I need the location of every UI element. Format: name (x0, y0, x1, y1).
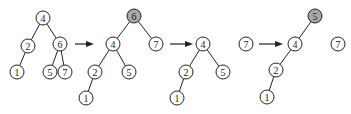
node-label: 7 (244, 39, 249, 50)
node-label: 7 (63, 67, 68, 78)
node-label: 1 (15, 67, 20, 78)
node-label: 5 (313, 11, 318, 22)
tree-panel-1: 426157 (10, 11, 72, 79)
tree-edge (20, 52, 26, 65)
tree-panel-2: 647251 (79, 9, 163, 105)
diagram-svg: 4261576472514251754721 (0, 0, 351, 114)
tree-node-5: 5 (122, 65, 136, 79)
node-label: 5 (48, 67, 53, 78)
tree-node-2: 2 (21, 39, 35, 53)
tree-node-5: 5 (216, 65, 230, 79)
tree-edge (47, 24, 56, 38)
tree-edge (99, 50, 109, 66)
tree-panel-4: 754721 (239, 9, 345, 104)
node-label: 6 (58, 39, 63, 50)
node-label: 4 (111, 39, 116, 50)
node-label: 2 (93, 67, 98, 78)
tree-panel-3: 4251 (170, 37, 230, 105)
tree-rotation-diagram: 4261576472514251754721 (0, 0, 351, 114)
node-label: 7 (336, 39, 341, 50)
tree-edge (31, 24, 39, 40)
tree-edge (88, 79, 92, 92)
node-label: 4 (293, 39, 298, 50)
tree-node-2: 2 (179, 65, 193, 79)
node-label: 1 (265, 92, 270, 103)
tree-node-7: 7 (149, 37, 163, 51)
node-label: 4 (201, 39, 206, 50)
tree-node-1: 1 (170, 91, 184, 105)
node-label: 6 (132, 11, 137, 22)
tree-node-5-highlighted: 5 (308, 9, 322, 23)
tree-node-1: 1 (10, 65, 24, 79)
tree-node-2: 2 (269, 63, 283, 77)
node-label: 5 (221, 67, 226, 78)
tree-node-4: 4 (36, 11, 50, 25)
tree-edge (190, 50, 200, 66)
tree-node-4: 4 (106, 37, 120, 51)
tree-edge (269, 77, 274, 91)
tree-node-2: 2 (88, 65, 102, 79)
tree-node-7: 7 (58, 65, 72, 79)
tree-node-1: 1 (260, 90, 274, 104)
tree-edge (116, 50, 125, 66)
right-arrow-icon (259, 41, 283, 47)
node-label: 7 (154, 39, 159, 50)
right-arrow-icon (75, 41, 94, 47)
node-label: 2 (274, 65, 279, 76)
tree-edge (138, 22, 151, 39)
tree-node-4: 4 (288, 37, 302, 51)
node-label: 1 (175, 93, 180, 104)
node-label: 4 (41, 13, 46, 24)
tree-node-6-highlighted: 6 (127, 9, 141, 23)
node-label: 1 (84, 93, 89, 104)
tree-node-6: 6 (53, 37, 67, 51)
tree-edge (280, 50, 291, 65)
tree-edge (117, 22, 130, 39)
tree-edge (52, 51, 57, 66)
node-label: 5 (127, 67, 132, 78)
tree-node-1: 1 (79, 91, 93, 105)
tree-node-7: 7 (331, 37, 345, 51)
tree-node-7: 7 (239, 37, 253, 51)
tree-node-4: 4 (196, 37, 210, 51)
node-label: 2 (184, 67, 189, 78)
node-label: 2 (26, 41, 31, 52)
right-arrow-icon (170, 41, 193, 47)
tree-edge (179, 79, 183, 92)
tree-edge (61, 51, 64, 65)
tree-node-5: 5 (43, 65, 57, 79)
tree-edge (207, 50, 219, 67)
tree-edge (299, 22, 311, 39)
